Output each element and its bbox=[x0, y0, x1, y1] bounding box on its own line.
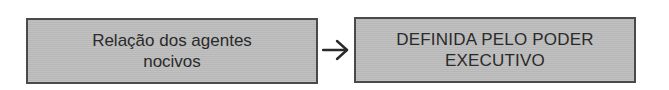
node-definida-pelo-poder-executivo: DEFINIDA PELO PODER EXECUTIVO bbox=[354, 17, 636, 83]
arrow-right-icon bbox=[322, 38, 350, 62]
node-label-line-2: EXECUTIVO bbox=[445, 50, 545, 71]
node-label-line-1: Relação dos agentes bbox=[92, 30, 252, 51]
node-label-line-2: nocivos bbox=[143, 51, 201, 72]
node-relacao-agentes-nocivos: Relação dos agentes nocivos bbox=[26, 18, 318, 84]
node-label-line-1: DEFINIDA PELO PODER bbox=[396, 29, 593, 50]
